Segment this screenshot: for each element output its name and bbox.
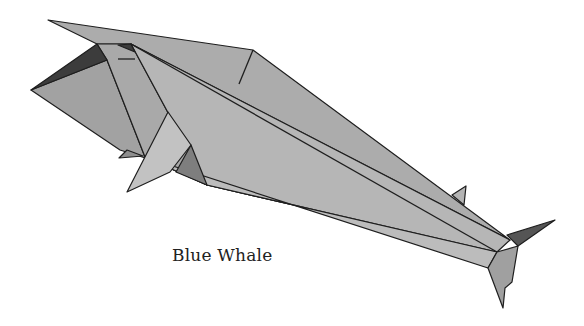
caption: Blue Whale [172, 245, 272, 265]
whale-tail-upper-fluke [507, 220, 555, 246]
origami-whale-illustration [0, 0, 584, 326]
